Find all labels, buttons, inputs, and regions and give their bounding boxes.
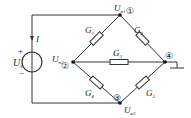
- node-4-number: ④: [165, 51, 173, 61]
- node-3-number: ③: [113, 93, 121, 103]
- label-g3: G3: [113, 48, 123, 59]
- node-1-number: ①: [126, 6, 134, 16]
- node-3-voltage: Un3: [124, 105, 136, 116]
- label-g1: G1: [85, 25, 94, 36]
- source-label: Us: [13, 57, 23, 69]
- resistor-g4: [90, 76, 104, 89]
- circuit-diagram: + − Us I G1 G2 G3 G4 G5 Un1 Un2 Un3 ① ② …: [0, 0, 191, 118]
- source-minus: −: [19, 68, 24, 78]
- current-label: I: [35, 34, 40, 44]
- ground-wire: [165, 62, 177, 68]
- label-g4: G4: [85, 88, 95, 99]
- resistor-g3: [110, 60, 128, 65]
- label-g2: G2: [134, 25, 144, 36]
- current-arrow-icon: [30, 36, 34, 41]
- label-g5: G5: [146, 88, 156, 99]
- node-2-number: ②: [61, 61, 69, 71]
- node-1-voltage: Un1: [114, 3, 126, 14]
- node-2-dot: [71, 60, 75, 64]
- source-plus: +: [18, 46, 23, 56]
